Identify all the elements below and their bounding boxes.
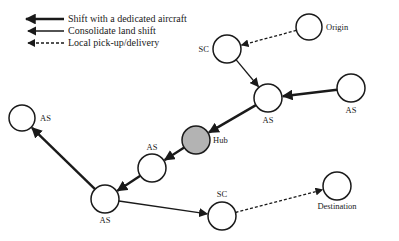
- node-label: AS: [263, 115, 274, 125]
- node-circle: [254, 84, 282, 112]
- node-hub: Hub: [182, 126, 228, 154]
- node-as_center: AS: [254, 84, 282, 125]
- edge-as_bottom-to-sc_bottom: [119, 201, 207, 214]
- edge-sc_bottom-to-destination: [236, 190, 323, 213]
- node-label: Destination: [317, 201, 357, 211]
- edge-as_center-to-hub: [209, 105, 256, 132]
- node-origin: Origin: [296, 14, 349, 40]
- node-sc_top: SC: [199, 35, 241, 63]
- node-circle: [213, 35, 241, 63]
- node-label: Origin: [326, 22, 349, 32]
- node-as_bottom: AS: [91, 185, 119, 225]
- edge-as_bottom-to-as_left: [32, 128, 95, 189]
- node-circle: [208, 202, 236, 230]
- node-circle: [296, 14, 322, 40]
- edge-as_right-to-as_center: [283, 90, 337, 97]
- nodes: OriginSCASASASHubASASSCDestination: [9, 14, 365, 230]
- logistics-network-diagram: Shift with a dedicated aircraft Consolid…: [0, 0, 399, 241]
- legend-item-local: Local pick-up/delivery: [28, 37, 159, 48]
- node-sc_bottom: SC: [208, 189, 236, 230]
- edge-hub-to-as_mid: [165, 148, 185, 160]
- node-as_left: AS: [9, 105, 51, 131]
- node-label: AS: [40, 113, 51, 123]
- legend-item-consolidate: Consolidate land shift: [28, 25, 156, 36]
- edge-as_mid-to-as_bottom: [118, 176, 141, 191]
- edges: [32, 30, 337, 213]
- node-as_mid: AS: [138, 142, 166, 182]
- legend-label: Shift with a dedicated aircraft: [68, 13, 187, 24]
- node-label: SC: [217, 189, 228, 199]
- node-label: SC: [199, 44, 210, 54]
- legend-label: Local pick-up/delivery: [68, 37, 159, 48]
- node-circle: [9, 105, 35, 131]
- hub-circle: [182, 126, 210, 154]
- node-label: AS: [147, 142, 158, 152]
- node-destination: Destination: [317, 172, 357, 211]
- node-circle: [91, 185, 119, 213]
- node-label: AS: [346, 105, 357, 115]
- legend-item-dedicated: Shift with a dedicated aircraft: [26, 13, 187, 24]
- edge-sc_top-to-as_center: [236, 60, 258, 87]
- node-circle: [138, 154, 166, 182]
- legend-label: Consolidate land shift: [68, 25, 156, 36]
- node-as_right: AS: [337, 74, 365, 115]
- legend: Shift with a dedicated aircraft Consolid…: [26, 13, 187, 48]
- node-label: AS: [100, 215, 111, 225]
- node-circle: [323, 172, 351, 200]
- edge-origin-to-sc_top: [242, 30, 297, 45]
- node-circle: [337, 74, 365, 102]
- node-label: Hub: [213, 135, 228, 145]
